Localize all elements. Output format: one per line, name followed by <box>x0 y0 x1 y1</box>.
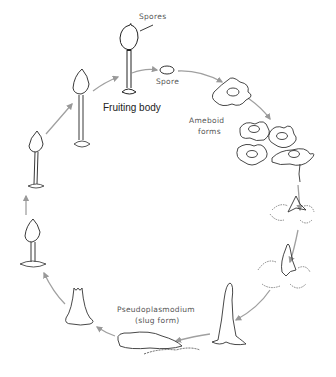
arrow-mound-to-slug <box>176 334 210 341</box>
cycle-arrows <box>26 69 300 341</box>
label-slug-form: (slug form) <box>135 316 180 325</box>
rising-column <box>212 283 246 345</box>
single-ameboid <box>212 78 251 106</box>
arrow-slug-to-culmination <box>97 327 115 336</box>
label-ameboid: Ameboid <box>189 116 224 125</box>
arrow-elongating-to-mature <box>46 104 72 134</box>
aggregation-mound <box>258 244 310 288</box>
arrow-cluster-to-aggregation <box>298 185 300 210</box>
elongating-fruiting-body <box>28 131 44 188</box>
arrow-fruiting-to-spore <box>132 69 157 73</box>
early-fruiting-body <box>20 219 46 267</box>
tall-fruiting-body <box>73 69 90 147</box>
aggregation-stage <box>270 196 314 223</box>
arrow-mature-to-tall <box>93 77 118 91</box>
culmination-stage <box>66 288 93 325</box>
label-forms: forms <box>198 127 221 136</box>
label-pseudoplasmodium: Pseudoplasmodium <box>117 305 195 314</box>
arrow-aggregation-to-column <box>290 230 298 262</box>
label-fruiting-body: Fruiting body <box>103 102 161 113</box>
label-spore: Spore <box>156 77 179 86</box>
ameboid-cluster <box>237 122 314 182</box>
mature-fruiting-body <box>120 24 153 95</box>
arrow-ameboid-to-cluster <box>248 98 270 119</box>
arrow-column-to-mound <box>236 290 270 320</box>
label-spores: Spores <box>139 12 166 21</box>
spore-shape <box>160 66 174 74</box>
arrow-spore-to-ameboid <box>178 71 222 82</box>
slug-form <box>118 332 200 354</box>
arrow-culmination-to-early <box>44 273 65 304</box>
